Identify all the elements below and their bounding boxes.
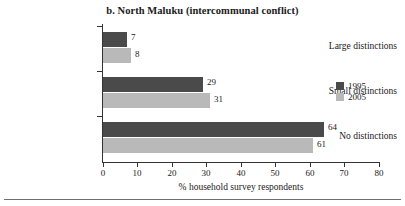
bar-no-distinctions-1995: [103, 122, 324, 137]
legend-label-1995: 1995: [348, 81, 366, 91]
category-label-large-distinctions: Large distinctions: [309, 41, 405, 51]
x-axis-tick: [379, 163, 380, 167]
bar-large-distinctions-2005: [103, 48, 131, 63]
y-axis-tick: [97, 116, 102, 117]
bar-small-distinctions-1995: [103, 77, 203, 92]
x-axis-tick: [172, 163, 173, 167]
bar-value-no-distinctions-1995: 64: [328, 122, 337, 132]
chart-figure: b. North Maluku (intercommunal conflict)…: [0, 0, 405, 206]
figure-bottom-rule: [4, 199, 401, 200]
y-axis-tick: [97, 26, 102, 27]
bar-large-distinctions-1995: [103, 32, 127, 47]
bar-value-small-distinctions-1995: 29: [207, 77, 216, 87]
legend-swatch-2005-icon: [336, 93, 344, 101]
x-axis-tick-label: 80: [367, 168, 391, 178]
legend-label-2005: 2005: [348, 92, 366, 102]
x-axis-tick-label: 10: [125, 168, 149, 178]
x-axis-tick: [137, 163, 138, 167]
x-axis-tick: [241, 163, 242, 167]
bar-value-large-distinctions-1995: 7: [131, 32, 136, 42]
x-axis-tick-label: 0: [91, 168, 115, 178]
x-axis-tick: [275, 163, 276, 167]
x-axis-tick: [206, 163, 207, 167]
legend-swatch-1995-icon: [336, 82, 344, 90]
x-axis-tick-label: 40: [229, 168, 253, 178]
x-axis-tick: [344, 163, 345, 167]
x-axis-tick-label: 50: [263, 168, 287, 178]
legend-item-2005: 2005: [336, 92, 366, 102]
legend-item-1995: 1995: [336, 81, 366, 91]
y-axis-tick: [97, 71, 102, 72]
x-axis-tick-label: 60: [298, 168, 322, 178]
x-axis-tick-label: 30: [194, 168, 218, 178]
bar-value-small-distinctions-2005: 31: [214, 94, 223, 104]
chart-legend: 1995 2005: [336, 81, 366, 103]
x-axis-tick: [310, 163, 311, 167]
chart-title: b. North Maluku (intercommunal conflict): [0, 5, 405, 16]
bar-value-large-distinctions-2005: 8: [135, 49, 140, 59]
bar-no-distinctions-2005: [103, 138, 313, 153]
x-axis-label: % household survey respondents: [103, 182, 379, 192]
bar-value-no-distinctions-2005: 61: [317, 139, 326, 149]
x-axis-tick-label: 70: [332, 168, 356, 178]
x-axis-tick-label: 20: [160, 168, 184, 178]
bar-small-distinctions-2005: [103, 93, 210, 108]
x-axis-tick: [103, 163, 104, 167]
